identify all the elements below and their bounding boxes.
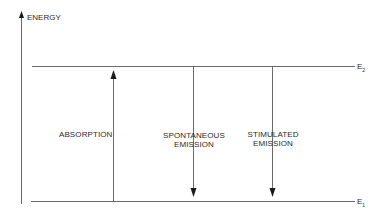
axis-arrowhead-icon xyxy=(19,11,24,18)
axis-label: ENERGY xyxy=(27,13,61,22)
level-label-e2: E2 xyxy=(357,62,365,75)
stimulated-label-line2: EMISSION xyxy=(245,139,301,148)
level-e2-subscript: 2 xyxy=(362,67,365,73)
energy-level-diagram xyxy=(0,0,382,213)
absorption-label: ABSORPTION xyxy=(59,130,111,139)
absorption-arrowhead-icon xyxy=(111,70,117,79)
stimulated-arrowhead-icon xyxy=(270,188,276,197)
stimulated-label-line1: STIMULATED xyxy=(245,130,301,139)
spontaneous-arrowhead-icon xyxy=(191,188,197,197)
stimulated-emission-label: STIMULATED EMISSION xyxy=(245,130,301,148)
spontaneous-label-line2: EMISSION xyxy=(163,140,225,149)
spontaneous-label-line1: SPONTANEOUS xyxy=(163,131,225,140)
absorption-label-line1: ABSORPTION xyxy=(59,130,111,139)
level-e1-subscript: 1 xyxy=(362,202,365,208)
spontaneous-emission-label: SPONTANEOUS EMISSION xyxy=(163,131,225,149)
level-label-e1: E1 xyxy=(357,197,365,210)
